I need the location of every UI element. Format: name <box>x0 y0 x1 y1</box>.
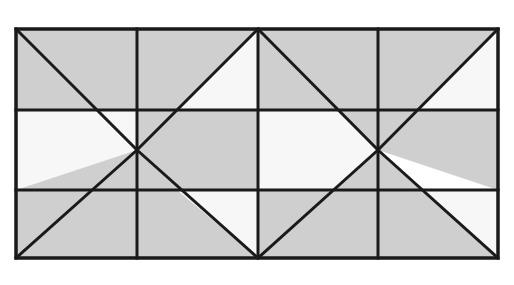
geometric-pattern-figure: Geometric tiled pattern of gray and whit… <box>0 0 514 285</box>
region-r6 <box>16 190 137 258</box>
region-r1 <box>16 29 137 110</box>
